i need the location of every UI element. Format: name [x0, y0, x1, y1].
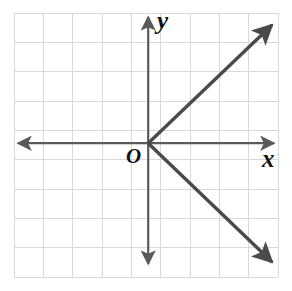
lower-right-ray	[148, 143, 272, 262]
origin-label: O	[126, 146, 141, 167]
x-axis-label: x	[262, 146, 275, 171]
graph-canvas	[0, 0, 292, 291]
coordinate-plane-figure: y x O	[0, 0, 292, 291]
grid-lines	[14, 13, 278, 277]
y-axis-label: y	[157, 8, 168, 33]
